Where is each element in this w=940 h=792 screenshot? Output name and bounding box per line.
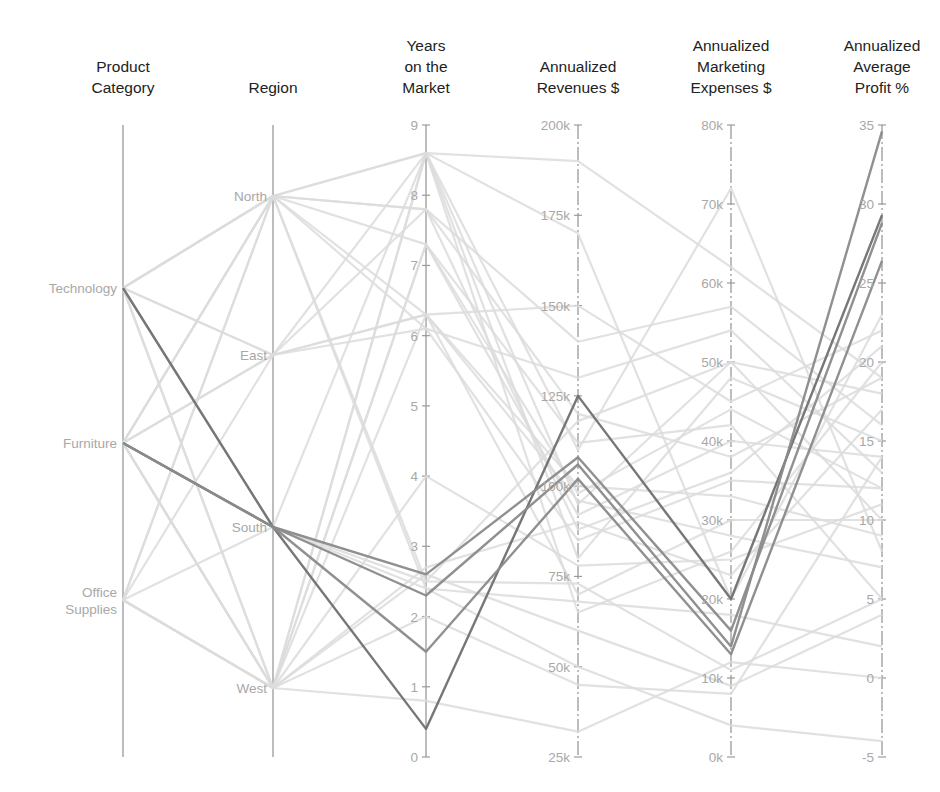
tick-label: 80k xyxy=(701,118,723,133)
data-line xyxy=(123,153,882,504)
axis-title-line: Profit % xyxy=(817,77,940,98)
tick-label: 25k xyxy=(548,750,570,765)
data-line xyxy=(123,153,882,688)
category-label: Technology xyxy=(49,281,118,296)
axes xyxy=(123,125,886,757)
axis-title-profit: AnnualizedAverageProfit % xyxy=(817,35,940,98)
tick-label: 100k xyxy=(541,479,571,494)
tick-label: 20 xyxy=(859,355,874,370)
category-label: Furniture xyxy=(63,436,117,451)
axis-title-line: Revenues $ xyxy=(513,77,643,98)
parallel-coordinates-chart: TechnologyFurnitureOfficeSuppliesNorthEa… xyxy=(0,0,940,792)
data-line xyxy=(123,409,882,688)
category-label: West xyxy=(236,681,267,696)
tick-label: 25 xyxy=(859,276,874,291)
tick-label: 150k xyxy=(541,299,571,314)
tick-label: 10k xyxy=(701,671,723,686)
data-line xyxy=(123,209,882,456)
tick-label: 50k xyxy=(701,355,723,370)
plot-area: TechnologyFurnitureOfficeSuppliesNorthEa… xyxy=(0,0,940,792)
data-line xyxy=(123,153,882,688)
tick-label: 40k xyxy=(701,434,723,449)
axis-title-line: Region xyxy=(208,77,338,98)
axis-title-marketing: AnnualizedMarketingExpenses $ xyxy=(666,35,796,98)
axis-title-line: Annualized xyxy=(817,35,940,56)
tick-label: 4 xyxy=(410,469,418,484)
axis-title-line: Annualized xyxy=(666,35,796,56)
tick-label: 175k xyxy=(541,208,571,223)
tick-label: 1 xyxy=(410,680,418,695)
tick-label: 6 xyxy=(410,329,418,344)
tick-label: 0k xyxy=(709,750,724,765)
data-line xyxy=(123,457,882,694)
tick-label: 30k xyxy=(701,513,723,528)
tick-label: 200k xyxy=(541,118,571,133)
category-label: East xyxy=(240,348,267,363)
axis-title-years: Yearson theMarket xyxy=(361,35,491,98)
tick-label: 60k xyxy=(701,276,723,291)
data-line xyxy=(123,196,882,670)
axis-years xyxy=(422,125,430,757)
tick-label: 3 xyxy=(410,539,418,554)
tick-label: 10 xyxy=(859,513,874,528)
category-label: South xyxy=(232,520,267,535)
axis-title-line: Category xyxy=(58,77,188,98)
tick-label: 35 xyxy=(859,118,874,133)
axis-title-line: Average xyxy=(817,56,940,77)
tick-label: 30 xyxy=(859,197,874,212)
axis-tick-labels: TechnologyFurnitureOfficeSuppliesNorthEa… xyxy=(49,118,874,765)
axis-title-line: on the xyxy=(361,56,491,77)
data-line xyxy=(123,223,882,631)
tick-label: -5 xyxy=(862,750,874,765)
data-line xyxy=(123,131,882,646)
axis-title-line: Expenses $ xyxy=(666,77,796,98)
tick-label: 5 xyxy=(866,592,874,607)
category-label: North xyxy=(234,189,267,204)
tick-label: 70k xyxy=(701,197,723,212)
tick-label: 20k xyxy=(701,592,723,607)
tick-label: 75k xyxy=(548,569,570,584)
data-line xyxy=(123,196,882,646)
tick-label: 8 xyxy=(410,188,418,203)
category-label: Office xyxy=(82,585,117,600)
tick-label: 9 xyxy=(410,118,418,133)
tick-label: 0 xyxy=(410,750,418,765)
tick-label: 50k xyxy=(548,660,570,675)
tick-label: 15 xyxy=(859,434,874,449)
axis-title-line: Annualized xyxy=(513,56,643,77)
axis-title-region: Region xyxy=(208,77,338,98)
axis-title-revenue: AnnualizedRevenues $ xyxy=(513,56,643,98)
axis-title-line: Years xyxy=(361,35,491,56)
tick-label: 125k xyxy=(541,389,571,404)
axis-title-line: Product xyxy=(58,56,188,77)
tick-label: 0 xyxy=(866,671,874,686)
tick-label: 5 xyxy=(410,399,418,414)
data-line xyxy=(123,362,882,581)
faded-data-lines xyxy=(123,153,882,741)
axis-title-category: ProductCategory xyxy=(58,56,188,98)
tick-label: 7 xyxy=(410,258,418,273)
axis-title-line: Market xyxy=(361,77,491,98)
tick-label: 2 xyxy=(410,610,418,625)
highlighted-data-lines xyxy=(123,131,882,729)
axis-title-line: Marketing xyxy=(666,56,796,77)
data-line xyxy=(123,153,882,558)
category-label: Supplies xyxy=(65,602,117,617)
